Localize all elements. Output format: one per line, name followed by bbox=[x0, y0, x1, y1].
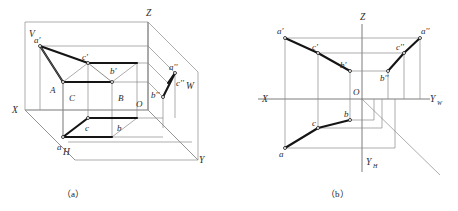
panel-b-group: X Z Y W Y H a' c' b' a c b a'' c'' b'' O… bbox=[258, 12, 443, 199]
label-c-h-a: c bbox=[85, 123, 89, 133]
label-a-prime-a: a' bbox=[34, 35, 42, 45]
label-a-h-a: a bbox=[57, 142, 62, 152]
label-axis-yh-b: Y bbox=[366, 157, 373, 167]
label-axis-x-a: X bbox=[11, 105, 19, 115]
label-c-prime-a: c' bbox=[82, 52, 89, 62]
label-point-A: A bbox=[49, 85, 56, 95]
label-c-prime-b: c' bbox=[312, 42, 319, 52]
construction-lines-a bbox=[40, 46, 148, 137]
grid-v-b bbox=[285, 38, 362, 99]
label-axis-z-a: Z bbox=[146, 8, 152, 18]
label-b-h-a: b bbox=[117, 123, 122, 133]
label-point-C: C bbox=[69, 93, 76, 103]
panel-a-group: V H W X Y Z a' c' b' A C B O a c b a'' c… bbox=[11, 8, 206, 199]
triangle-h-b bbox=[285, 120, 350, 148]
label-c-dprime-b: c'' bbox=[396, 42, 405, 52]
grid-mirror-b bbox=[362, 99, 395, 148]
caption-a: （a） bbox=[62, 189, 84, 199]
label-axis-x-b: X bbox=[261, 94, 269, 104]
label-b-h-b: b bbox=[344, 109, 349, 119]
label-axis-y-a: Y bbox=[199, 155, 206, 165]
figure-root: V H W X Y Z a' c' b' A C B O a c b a'' c… bbox=[0, 0, 458, 211]
label-c-dprime-a: c'' bbox=[176, 78, 185, 88]
label-a-h-b: a bbox=[279, 149, 284, 159]
label-b-dprime-a: b'' bbox=[151, 90, 160, 100]
label-axis-z-b: Z bbox=[360, 12, 366, 22]
label-a-dprime-a: a'' bbox=[169, 62, 178, 72]
label-a-prime-b: a' bbox=[277, 26, 285, 36]
caption-b: （b） bbox=[326, 189, 349, 199]
label-origin-a: O bbox=[136, 99, 143, 109]
label-b-prime-a: b' bbox=[110, 66, 118, 76]
label-c-h-b: c bbox=[312, 118, 316, 128]
panel-a-svg: V H W X Y Z a' c' b' A C B O a c b a'' c… bbox=[0, 0, 458, 211]
label-b-prime-b: b' bbox=[340, 60, 348, 70]
label-point-B: B bbox=[118, 93, 124, 103]
triangle-h-projection bbox=[63, 118, 137, 137]
label-axis-yw-sub: W bbox=[437, 100, 443, 106]
label-axis-yw-b: Y bbox=[430, 94, 437, 104]
label-b-dprime-b: b'' bbox=[380, 73, 389, 83]
label-plane-w: W bbox=[186, 81, 195, 91]
label-a-dprime-b: a'' bbox=[421, 26, 430, 36]
v-plane bbox=[25, 22, 148, 110]
construction-lines-w bbox=[148, 46, 175, 128]
label-plane-h: H bbox=[62, 147, 71, 157]
label-origin-b: O bbox=[353, 87, 360, 97]
triangle-w-projection bbox=[163, 73, 175, 97]
label-axis-yh-sub: H bbox=[372, 163, 378, 169]
